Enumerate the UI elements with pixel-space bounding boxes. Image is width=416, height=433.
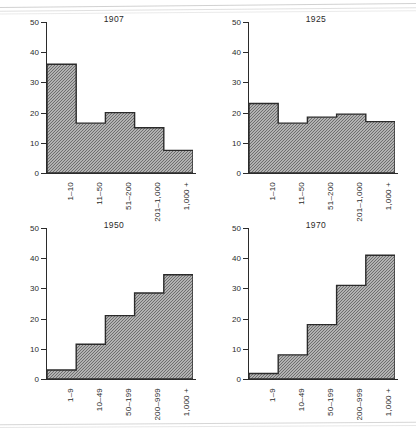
x-axis-labels: 1–910–4950–199200–9991,000 + — [46, 388, 194, 433]
x-axis-tick-label: 201–1,000 — [350, 182, 359, 222]
y-axis-tick — [41, 82, 46, 83]
x-axis-line — [46, 379, 196, 380]
y-axis-tick — [243, 349, 248, 350]
x-axis-tick-label-text: 1–9 — [65, 388, 74, 402]
x-axis-tick-label-text: 1–10 — [267, 182, 276, 201]
x-axis-tick-label-text: 11–50 — [296, 182, 305, 205]
y-axis-tick — [243, 22, 248, 23]
y-axis-tick-label: 30 — [30, 78, 39, 87]
x-axis-tick-label-text: 201–1,000 — [355, 182, 364, 222]
y-axis-tick-label: 50 — [30, 224, 39, 233]
plot-area: 01020304050 — [248, 22, 396, 174]
y-axis-tick-label: 10 — [232, 138, 241, 147]
x-axis-tick-label: 1–10 — [263, 182, 272, 201]
y-axis-tick — [41, 22, 46, 23]
y-axis-tick-label: 0 — [35, 375, 39, 384]
x-axis-tick-label-text: 1,000 + — [384, 182, 393, 210]
y-axis-tick-label: 0 — [237, 169, 241, 178]
x-axis-tick-label: 1,000 + — [177, 182, 186, 210]
x-axis-tick-label: 10–49 — [292, 388, 301, 411]
step-histogram — [249, 228, 395, 379]
y-axis-tick — [243, 82, 248, 83]
y-axis-tick-label: 50 — [232, 224, 241, 233]
step-histogram — [47, 228, 193, 379]
y-axis-tick — [41, 319, 46, 320]
y-axis-tick — [243, 319, 248, 320]
step-histogram — [47, 22, 193, 173]
chart-panel-1970: 1970010203040501–910–4950–199200–9991,00… — [202, 220, 404, 418]
plot-area: 01020304050 — [46, 22, 194, 174]
x-axis-tick-label-text: 1–10 — [65, 182, 74, 201]
x-axis-tick-label: 1–10 — [61, 182, 70, 201]
x-axis-tick-label-text: 200–999 — [153, 388, 162, 421]
x-axis-tick-label: 1–9 — [61, 388, 70, 402]
x-axis-tick-label-text: 50–199 — [326, 388, 335, 416]
x-axis-tick-label-text: 50–199 — [124, 388, 133, 416]
plot-area: 01020304050 — [46, 228, 194, 380]
y-axis-tick-label: 40 — [232, 48, 241, 57]
x-axis-tick-label: 1,000 + — [177, 388, 186, 416]
x-axis-tick-label-text: 200–999 — [355, 388, 364, 421]
x-axis-line — [248, 379, 398, 380]
x-axis-tick-label: 11–50 — [292, 182, 301, 205]
x-axis-tick-label: 200–999 — [350, 388, 359, 421]
y-axis-tick — [41, 113, 46, 114]
x-axis-tick-label-text: 1,000 + — [182, 182, 191, 210]
chart-grid: 1907010203040501–1011–5051–200201–1,0001… — [0, 14, 404, 418]
x-axis-tick-label-text: 1,000 + — [182, 388, 191, 416]
chart-panel-1950: 1950010203040501–910–4950–199200–9991,00… — [0, 220, 202, 418]
x-axis-tick-label: 1–9 — [263, 388, 272, 402]
step-histogram — [249, 22, 395, 173]
x-axis-tick-label-text: 11–50 — [94, 182, 103, 205]
y-axis-tick-label: 40 — [30, 48, 39, 57]
y-axis-tick-label: 40 — [232, 254, 241, 263]
x-axis-tick-label-text: 1,000 + — [384, 388, 393, 416]
y-axis-tick — [243, 258, 248, 259]
y-axis-tick — [41, 228, 46, 229]
y-axis-tick-label: 10 — [232, 344, 241, 353]
plot-area: 01020304050 — [248, 228, 396, 380]
x-axis-tick-label: 50–199 — [119, 388, 128, 416]
x-axis-tick-label: 201–1,000 — [148, 182, 157, 222]
y-axis-tick-label: 0 — [237, 375, 241, 384]
y-axis-tick — [243, 143, 248, 144]
y-axis-tick — [41, 349, 46, 350]
y-axis-tick-label: 40 — [30, 254, 39, 263]
y-axis-tick-label: 20 — [30, 108, 39, 117]
x-axis-tick-label-text: 51–200 — [124, 182, 133, 210]
x-axis-line — [46, 173, 196, 174]
y-axis-tick-label: 30 — [232, 284, 241, 293]
y-axis-tick — [41, 52, 46, 53]
y-axis-tick-label: 10 — [30, 138, 39, 147]
x-axis-tick-label: 51–200 — [119, 182, 128, 210]
x-axis-tick-label-text: 1–9 — [267, 388, 276, 402]
scan-line-top-2 — [0, 7, 416, 12]
x-axis-tick-label: 1,000 + — [379, 388, 388, 416]
y-axis-tick-label: 30 — [232, 78, 241, 87]
x-axis-tick-label: 1,000 + — [379, 182, 388, 210]
x-axis-tick-label-text: 10–49 — [296, 388, 305, 411]
y-axis-tick — [243, 288, 248, 289]
y-axis-tick — [41, 258, 46, 259]
y-axis-tick-label: 50 — [232, 18, 241, 27]
x-axis-tick-label-text: 10–49 — [94, 388, 103, 411]
y-axis-tick-label: 10 — [30, 344, 39, 353]
x-axis-tick-label-text: 51–200 — [326, 182, 335, 210]
y-axis-tick — [41, 288, 46, 289]
y-axis-tick-label: 0 — [35, 169, 39, 178]
chart-panel-1907: 1907010203040501–1011–5051–200201–1,0001… — [0, 14, 202, 220]
x-axis-tick-label: 50–199 — [321, 388, 330, 416]
y-axis-tick-label: 20 — [232, 314, 241, 323]
x-axis-line — [248, 173, 398, 174]
y-axis-tick — [243, 52, 248, 53]
chart-panel-1925: 1925010203040501–1011–5051–200201–1,0001… — [202, 14, 404, 220]
scan-line-top-1 — [0, 3, 416, 8]
y-axis-tick — [41, 143, 46, 144]
x-axis-tick-label: 51–200 — [321, 182, 330, 210]
y-axis-tick — [243, 228, 248, 229]
y-axis-tick-label: 30 — [30, 284, 39, 293]
y-axis-tick-label: 50 — [30, 18, 39, 27]
y-axis-tick-label: 20 — [232, 108, 241, 117]
y-axis-tick-label: 20 — [30, 314, 39, 323]
